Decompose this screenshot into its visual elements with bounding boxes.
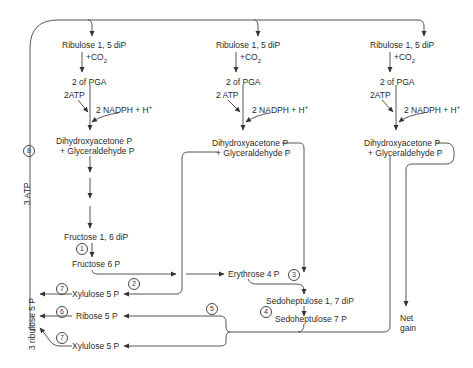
pga-label-2: 2 of PGA xyxy=(226,77,261,87)
pga-label-1: 2 of PGA xyxy=(72,77,107,87)
dhap-label-2: Dihydroxyacetone P xyxy=(212,138,288,148)
step-2: 2 xyxy=(128,278,140,290)
ribose-label: Ribose 5 P xyxy=(76,311,118,321)
fructose-16-label: Fructose 1, 6 diP xyxy=(64,232,128,242)
ribulose-label-3: Ribulose 1, 5 diP xyxy=(370,40,434,50)
atp-label-1: 2ATP xyxy=(64,90,85,100)
pga-label-3: 2 of PGA xyxy=(380,77,415,87)
nadph-text: 2 NADPH + H xyxy=(96,105,149,115)
step-1: 1 xyxy=(76,243,88,255)
gap-label-3: + Glyceraldehyde P xyxy=(368,148,442,158)
xylulose-bottom-label: Xylulose 5 P xyxy=(72,341,119,351)
step-7-top: 7 xyxy=(56,283,68,295)
gap-label-2: + Glyceraldehyde P xyxy=(216,148,290,158)
nadph-text: 2 NADPH + H xyxy=(404,105,457,115)
co2-sub: 2 xyxy=(104,58,107,64)
erythrose-label: Erythrose 4 P xyxy=(228,269,280,279)
step-5: 5 xyxy=(206,303,218,315)
co2-label-3: +CO2 xyxy=(394,52,415,66)
step-6: 6 xyxy=(56,306,68,318)
step-3: 3 xyxy=(288,269,300,281)
gap-label-1: + Glyceraldehyde P xyxy=(60,146,134,156)
nadph-label-3: 2 NADPH + H+ xyxy=(404,102,460,115)
co2-label-2: +CO2 xyxy=(240,52,261,66)
atp-label-2: 2 ATP xyxy=(216,90,239,100)
co2-sub: 2 xyxy=(412,58,415,64)
step-8: 8 xyxy=(23,145,35,157)
co2-text: +CO xyxy=(86,52,104,62)
nadph-sup: + xyxy=(457,104,461,110)
nadph-sup: + xyxy=(305,104,309,110)
dhap-label-1: Dihydroxyacetone P xyxy=(56,136,132,146)
co2-text: +CO xyxy=(240,52,258,62)
atp-label-3: 2ATP xyxy=(370,90,391,100)
ribulose-total-label: 3 ribulose 5 P xyxy=(27,298,37,350)
sedoheptulose-7-label: Sedoheptulose 7 P xyxy=(275,314,347,324)
step-7-bottom: 7 xyxy=(56,332,68,344)
fructose-6-label: Fructose 6 P xyxy=(72,259,120,269)
xylulose-top-label: Xylulose 5 P xyxy=(72,289,119,299)
nadph-label-1: 2 NADPH + H+ xyxy=(96,102,152,115)
net-label: Net xyxy=(400,313,413,323)
co2-sub: 2 xyxy=(258,58,261,64)
co2-label-1: +CO2 xyxy=(86,52,107,66)
nadph-text: 2 NADPH + H xyxy=(252,105,305,115)
sedoheptulose-17-label: Sedoheptulose 1, 7 diP xyxy=(266,296,354,306)
nadph-label-2: 2 NADPH + H+ xyxy=(252,102,308,115)
co2-text: +CO xyxy=(394,52,412,62)
gain-label: gain xyxy=(400,323,416,333)
ribulose-label-1: Ribulose 1, 5 diP xyxy=(62,40,126,50)
dhap-label-3: Dihydroxyacetone P xyxy=(364,138,440,148)
step-4: 4 xyxy=(260,306,272,318)
ribulose-label-2: Ribulose 1, 5 diP xyxy=(216,40,280,50)
atp-loop-label: 3 ATP xyxy=(22,182,32,205)
nadph-sup: + xyxy=(149,104,153,110)
